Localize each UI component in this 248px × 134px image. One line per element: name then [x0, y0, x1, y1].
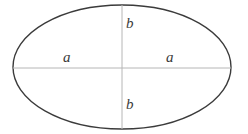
semi-major-axis-label-left: a: [63, 50, 71, 65]
diagram-canvas: [0, 0, 248, 134]
semi-minor-axis-label-top: b: [126, 16, 134, 31]
semi-minor-axis-label-bottom: b: [126, 97, 134, 112]
semi-major-axis-label-right: a: [166, 50, 174, 65]
ellipse-diagram: a a b b: [0, 0, 248, 134]
